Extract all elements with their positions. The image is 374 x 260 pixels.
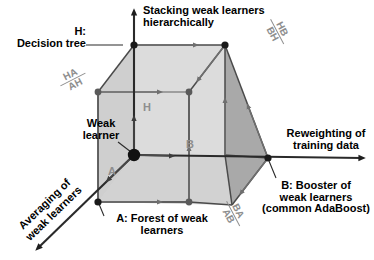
- axis-caption-b: Reweighting of training data: [278, 128, 374, 151]
- vertex-label-a-line2: learners: [94, 225, 230, 237]
- vertex-label-origin-line2: learner: [72, 130, 130, 142]
- vertex-dot-b: [264, 154, 271, 161]
- vertex-dot-inner-top: [186, 89, 193, 96]
- axis-caption-h-line1: Stacking weak learners: [143, 5, 318, 17]
- vertex-label-a: A: Forest of weak learners: [94, 213, 230, 236]
- vertex-dot-origin: [128, 149, 140, 161]
- edge-letter-b: B: [186, 138, 194, 150]
- face-front: [134, 45, 225, 155]
- diagram-canvas: Stacking weak learners hierarchically H:…: [0, 0, 374, 260]
- vertex-label-b-line1: B: Booster of: [258, 180, 374, 192]
- vertex-label-origin: Weak learner: [72, 118, 130, 141]
- vertex-dot-ab: [186, 199, 193, 206]
- vertex-label-b-line3: (common AdaBoost): [258, 203, 374, 215]
- axis-caption-b-line2: training data: [278, 140, 374, 152]
- vertex-dot-ha: [95, 89, 102, 96]
- edge-letter-h: H: [143, 101, 151, 113]
- vertex-label-h-line2: Decision tree: [0, 38, 86, 50]
- axis-caption-h: Stacking weak learners hierarchically: [143, 5, 318, 28]
- vertex-label-b: B: Booster of weak learners (common AdaB…: [258, 180, 374, 215]
- axis-caption-b-line1: Reweighting of: [278, 128, 374, 140]
- vertex-dot-hb: [221, 41, 228, 48]
- vertex-dot-a: [94, 198, 101, 205]
- axis-caption-h-line2: hierarchically: [143, 17, 318, 29]
- vertex-dot-h: [130, 41, 137, 48]
- vertex-label-origin-line1: Weak: [72, 118, 130, 130]
- edge-letter-a: A: [108, 165, 116, 177]
- vertex-label-h-line1: H:: [0, 26, 86, 38]
- vertex-label-a-line1: A: Forest of weak: [94, 213, 230, 225]
- vertex-label-h: H: Decision tree: [0, 26, 86, 49]
